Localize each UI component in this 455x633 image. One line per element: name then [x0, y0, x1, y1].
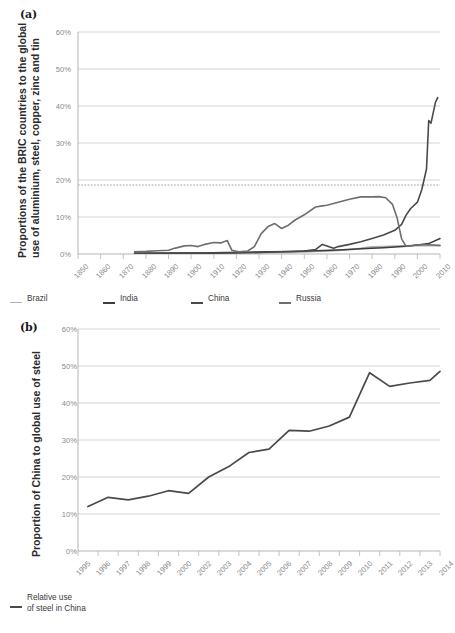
- legend-line-icon-steel-china: [10, 606, 22, 608]
- chart-panel-b: (b) Proportion of China to global use of…: [0, 315, 447, 633]
- legend-label-india: India: [120, 293, 138, 304]
- legend-label-steel-china-line2: of steel in China: [27, 604, 86, 613]
- legend-item-russia[interactable]: Russia: [279, 293, 321, 304]
- chart-panel-a: (a) Proportions of the BRIC countries to…: [0, 0, 447, 315]
- legend-item-china[interactable]: China: [191, 293, 279, 304]
- legend-label-russia: Russia: [296, 293, 321, 304]
- panel-a-series-russia: [135, 197, 440, 252]
- legend-line-icon-brazil: [10, 302, 22, 303]
- legend-item-brazil[interactable]: Brazil: [10, 293, 103, 304]
- panel-a-series-china: [135, 98, 438, 254]
- panel-b-series-china-steel: [88, 371, 440, 506]
- legend-label-brazil: Brazil: [27, 293, 47, 304]
- legend-item-india[interactable]: India: [103, 293, 191, 304]
- panel-a-legend: Brazil India China Russia: [10, 293, 321, 304]
- panel-b-x-ticks: [78, 551, 440, 556]
- panel-a-x-ticks: [78, 254, 440, 259]
- legend-line-icon-china: [191, 302, 203, 304]
- panel-b-legend: Relative use of steel in China: [10, 592, 86, 614]
- legend-line-icon-india: [103, 302, 115, 304]
- legend-label-china: China: [208, 293, 229, 304]
- legend-item-relative-use-steel-china[interactable]: Relative use of steel in China: [10, 592, 86, 614]
- legend-label-steel-china: Relative use of steel in China: [27, 592, 86, 614]
- legend-line-icon-russia: [279, 302, 291, 304]
- legend-label-steel-china-line1: Relative use: [27, 593, 72, 602]
- panel-a-gridlines: [78, 32, 440, 217]
- panel-b-gridlines: [78, 329, 440, 514]
